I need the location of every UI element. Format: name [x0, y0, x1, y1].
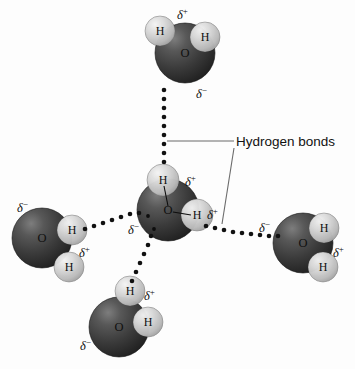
hydrogen-bond-dot — [222, 228, 227, 233]
hydrogen-bond-dot — [162, 133, 167, 138]
hydrogen-bond-dot — [204, 224, 209, 229]
hydrogen-atom-label: H — [201, 31, 210, 43]
partial-positive-charge-label: δ+ — [79, 247, 90, 260]
hydrogen-bond-dot — [130, 279, 135, 284]
partial-positive-charge-label: δ+ — [185, 176, 196, 189]
partial-positive-charge-label: δ+ — [144, 290, 155, 303]
partial-negative-charge-label: δ− — [80, 340, 91, 353]
hydrogen-bond-dot — [128, 212, 133, 217]
hydrogen-bond-dot — [134, 270, 139, 275]
lone-pair-dot — [146, 214, 150, 218]
hydrogen-bond-dot — [137, 211, 142, 216]
hydrogen-bond-top — [162, 88, 167, 165]
oxygen-atom-label: O — [180, 47, 189, 60]
lone-pair-dot — [152, 227, 156, 231]
hydrogen-bond-dot — [110, 218, 115, 223]
hydrogen-atom-label: H — [319, 261, 328, 273]
partial-positive-charge-label: δ+ — [333, 247, 344, 260]
partial-positive-charge-label: δ+ — [177, 9, 188, 22]
hydrogen-bonding-diagram: OHHδ+δ−OHHδ+δ+δ−OHHδ−δ+OHHδ−δ+OHHδ+δ−Hyd… — [0, 0, 355, 369]
hydrogen-atom-label: H — [159, 174, 168, 186]
hydrogen-bond-dot — [138, 261, 143, 266]
hydrogen-bond-dot — [240, 231, 245, 236]
hydrogen-bond-dot — [276, 234, 281, 239]
hydrogen-bond-dot — [146, 243, 151, 248]
oxygen-atom-label: O — [298, 237, 307, 250]
hydrogen-atom-label: H — [126, 285, 135, 297]
hydrogen-bond-dot — [231, 230, 236, 235]
oxygen-atom-label: O — [37, 232, 46, 245]
partial-negative-charge-label: δ− — [196, 88, 207, 101]
water-molecule-center — [137, 164, 213, 241]
partial-negative-charge-label: δ− — [128, 224, 139, 237]
hydrogen-bond-dot — [162, 88, 167, 93]
hydrogen-atom-label: H — [65, 261, 74, 273]
hydrogen-atom-label: H — [68, 224, 77, 236]
hydrogen-atom-label: H — [144, 316, 153, 328]
hydrogen-bond-dot — [142, 252, 147, 257]
hydrogen-atom-label: H — [156, 25, 165, 37]
leader-diagonal — [222, 148, 234, 224]
partial-positive-charge-label: δ+ — [207, 209, 218, 222]
hydrogen-bond-dot — [162, 97, 167, 102]
molecule-artwork-layer — [0, 0, 355, 369]
water-molecule-left — [12, 208, 87, 282]
hydrogen-bond-dot — [162, 124, 167, 129]
hydrogen-bond-dot — [162, 115, 167, 120]
hydrogen-bond-dot — [162, 142, 167, 147]
partial-negative-charge-label: δ− — [259, 222, 270, 235]
hydrogen-bond-dot — [213, 226, 218, 231]
hydrogen-bonds-callout-label: Hydrogen bonds — [236, 135, 335, 149]
partial-negative-charge-label: δ− — [17, 202, 28, 215]
hydrogen-bond-bottom — [130, 234, 154, 284]
hydrogen-bond-dot — [119, 215, 124, 220]
oxygen-atom-label: O — [163, 204, 172, 217]
hydrogen-bond-dot — [92, 224, 97, 229]
hydrogen-bond-dot — [249, 232, 254, 237]
hydrogen-bond-dot — [162, 151, 167, 156]
hydrogen-bond-dot — [83, 227, 88, 232]
hydrogen-atom-label: H — [193, 209, 202, 221]
hydrogen-bond-dot — [162, 106, 167, 111]
oxygen-atom-label: O — [114, 321, 123, 334]
hydrogen-atom-label: H — [320, 222, 329, 234]
hydrogen-bond-dot — [162, 160, 167, 165]
hydrogen-bond-dot — [149, 234, 154, 239]
hydrogen-bond-dot — [101, 221, 106, 226]
